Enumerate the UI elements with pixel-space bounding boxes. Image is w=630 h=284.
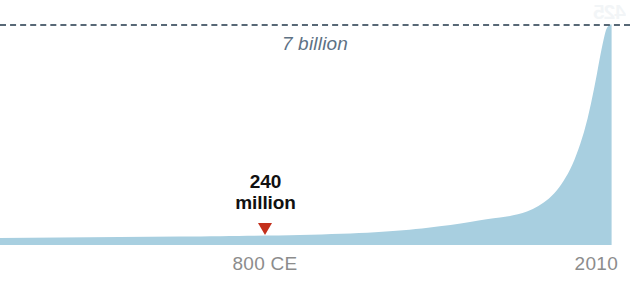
callout-240-million: 240 million	[183, 172, 348, 213]
axis-tick-2010: 2010	[575, 253, 618, 275]
callout-unit: million	[183, 193, 348, 214]
population-growth-chart: 425 7 billion 240 million 800 CE 2010	[0, 0, 630, 284]
callout-value: 240	[250, 171, 281, 192]
axis-tick-800-ce: 800 CE	[0, 253, 530, 275]
reference-line-label: 7 billion	[0, 33, 630, 55]
reference-line-7-billion	[0, 24, 630, 26]
callout-down-triangle-icon	[258, 223, 272, 235]
